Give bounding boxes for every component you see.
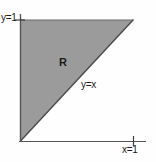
y-axis-label: y=1	[1, 13, 17, 23]
x-axis-label: x=1	[122, 145, 138, 155]
line-y-equals-x-label: y=x	[81, 80, 96, 90]
region-diagram: y=1 x=1 R y=x	[0, 0, 156, 162]
diagram-canvas	[0, 0, 156, 162]
region-label: R	[59, 57, 67, 68]
